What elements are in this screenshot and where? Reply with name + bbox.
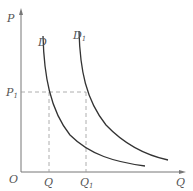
- curve-d-label: D: [37, 36, 47, 49]
- curve-d1-label: D1: [72, 29, 86, 43]
- x-axis-arrow-icon: [179, 170, 186, 174]
- x-axis-label: Q: [176, 176, 185, 189]
- p1-label: P1: [5, 86, 18, 100]
- demand-curve-d1: [79, 31, 168, 160]
- q-label: Q: [44, 176, 53, 189]
- demand-curve-d: [43, 36, 145, 166]
- q1-label: Q1: [80, 176, 94, 190]
- demand-shift-diagram: P Q O D D1 P1 Q Q1: [0, 0, 193, 191]
- y-axis-label: P: [6, 12, 15, 25]
- y-axis-arrow-icon: [19, 8, 23, 15]
- origin-label: O: [9, 173, 18, 186]
